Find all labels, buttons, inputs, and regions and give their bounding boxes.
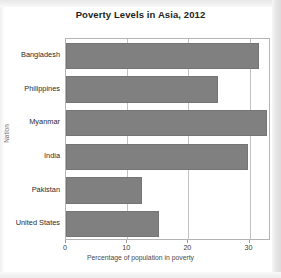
bar-row xyxy=(66,177,269,203)
bar-bangladesh[interactable] xyxy=(66,43,259,69)
plot-area xyxy=(65,38,270,240)
bar-chart-figure: Poverty Levels in Asia, 2012 Nation Bang… xyxy=(0,0,281,278)
bar-philippines[interactable] xyxy=(66,76,218,102)
bar-india[interactable] xyxy=(66,144,248,170)
y-axis-label-philippines: Philippines xyxy=(0,84,60,93)
bar-pakistan[interactable] xyxy=(66,177,142,203)
bar-myanmar[interactable] xyxy=(66,110,267,136)
bar-row xyxy=(66,144,269,170)
gridline xyxy=(188,39,189,239)
y-axis-label-bangladesh: Bangladesh xyxy=(0,50,60,59)
bar-united-states[interactable] xyxy=(66,211,159,237)
gridline xyxy=(127,39,128,239)
x-tick-label: 10 xyxy=(122,243,130,252)
bar-row xyxy=(66,76,269,102)
bar-row xyxy=(66,43,269,69)
y-axis-label-united-states: United States xyxy=(0,218,60,227)
x-tick-label: 20 xyxy=(183,243,191,252)
chart-title: Poverty Levels in Asia, 2012 xyxy=(0,9,281,20)
bar-row xyxy=(66,110,269,136)
x-tick-label: 0 xyxy=(63,243,67,252)
y-axis-label-pakistan: Pakistan xyxy=(0,185,60,194)
gridline xyxy=(250,39,251,239)
y-axis-label-myanmar: Myanmar xyxy=(0,117,60,126)
bar-row xyxy=(66,211,269,237)
x-axis-title: Percentage of population in poverty xyxy=(0,254,281,261)
y-axis-label-india: India xyxy=(0,151,60,160)
x-tick-label: 30 xyxy=(245,243,253,252)
